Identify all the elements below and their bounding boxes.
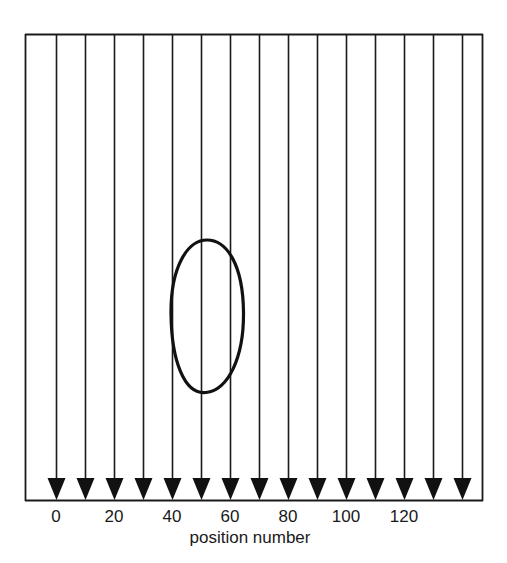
arrow-group	[48, 34, 472, 500]
arrow-12	[367, 34, 385, 500]
x-axis-title: position number	[190, 528, 311, 547]
arrow-3	[106, 34, 124, 500]
arrow-13	[396, 34, 414, 500]
arrow-11	[338, 34, 356, 500]
tick-label-100: 100	[332, 507, 360, 526]
arrow-2	[77, 34, 95, 500]
tick-label-20: 20	[105, 507, 124, 526]
arrow-8	[251, 34, 269, 500]
diagram-canvas: 0 20 40 60 80 100 120 position number	[0, 0, 507, 563]
arrow-6	[193, 34, 211, 500]
figure-container: 0 20 40 60 80 100 120 position number	[0, 0, 507, 563]
tick-label-40: 40	[163, 507, 182, 526]
arrow-14	[425, 34, 443, 500]
tick-label-60: 60	[221, 507, 240, 526]
arrow-10	[309, 34, 327, 500]
tick-label-0: 0	[51, 507, 60, 526]
tick-label-120: 120	[390, 507, 418, 526]
tick-label-80: 80	[279, 507, 298, 526]
arrow-9	[280, 34, 298, 500]
arrow-1	[48, 34, 66, 500]
annotation-ellipse	[171, 240, 244, 393]
arrow-15	[454, 34, 472, 500]
arrow-4	[135, 34, 153, 500]
